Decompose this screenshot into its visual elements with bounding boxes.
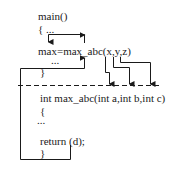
param-y-line [114, 57, 130, 80]
param-z-line [121, 57, 151, 80]
callee-body: ... [37, 114, 45, 126]
callee-signature: int max_abc(int a,int b,int c) [40, 92, 165, 104]
caller-open-brace: { ... [38, 23, 54, 35]
callee-close-brace: } [40, 147, 45, 159]
caller-close-brace: } [40, 66, 45, 78]
assignment-loop-line [49, 35, 85, 44]
caller-ellipsis: ... [51, 54, 59, 66]
param-x-line [106, 57, 110, 80]
callee-return: return (d); [40, 135, 85, 147]
caller-main: main() [38, 10, 67, 22]
